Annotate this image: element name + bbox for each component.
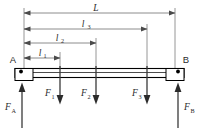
- dimension-label-l2: l: [56, 33, 59, 43]
- support-b-pin-dot: [176, 70, 180, 74]
- diagram-canvas: L l 3 l 2 l 1 A B: [0, 0, 199, 135]
- load-F1-label: F: [44, 88, 51, 98]
- dimension-label-l1-subscript: 1: [44, 52, 47, 59]
- dimension-label-l1: l: [39, 48, 42, 58]
- reaction-FB-label: F: [183, 102, 190, 112]
- reaction-FA-label: F: [4, 102, 11, 112]
- beam: [15, 69, 184, 78]
- load-F3-label-subscript: 3: [139, 93, 142, 100]
- support-a-box: [15, 69, 33, 81]
- support-a-pin-dot: [19, 70, 23, 74]
- dimension-label-l2-subscript: 2: [61, 37, 64, 44]
- load-F3-arrowhead: [144, 95, 151, 105]
- reaction-FB-arrowhead: [175, 83, 182, 93]
- beam-body: [15, 69, 184, 78]
- reaction-FB: F B: [175, 83, 195, 129]
- load-F2-label: F: [80, 88, 87, 98]
- load-F1-arrowhead: [57, 95, 64, 105]
- reaction-FA: F A: [4, 83, 25, 129]
- load-F3-label: F: [131, 88, 138, 98]
- extension-lines: [24, 8, 175, 70]
- support-b-box: [166, 69, 184, 81]
- dimension-label-l3: l: [82, 19, 85, 29]
- load-F1-label-subscript: 1: [52, 93, 55, 100]
- dimension-line-L: L: [24, 3, 175, 14]
- dimension-label-L: L: [92, 3, 98, 13]
- reaction-FA-arrowhead: [19, 83, 26, 93]
- support-b: [166, 69, 184, 81]
- dimension-label-l3-subscript: 3: [88, 23, 91, 30]
- load-F2-arrowhead: [93, 95, 100, 105]
- reaction-FB-label-subscript: B: [191, 107, 195, 114]
- support-a: [15, 69, 33, 81]
- support-label-b: B: [183, 54, 189, 65]
- dimension-line-l3: l 3: [24, 19, 147, 30]
- dimension-line-l1: l 1: [24, 48, 60, 59]
- dimension-line-l2: l 2: [24, 33, 96, 44]
- reaction-FA-label-subscript: A: [12, 107, 17, 114]
- beam-load-diagram: L l 3 l 2 l 1 A B: [0, 0, 199, 135]
- load-F2-label-subscript: 2: [88, 93, 91, 100]
- support-label-a: A: [10, 54, 17, 65]
